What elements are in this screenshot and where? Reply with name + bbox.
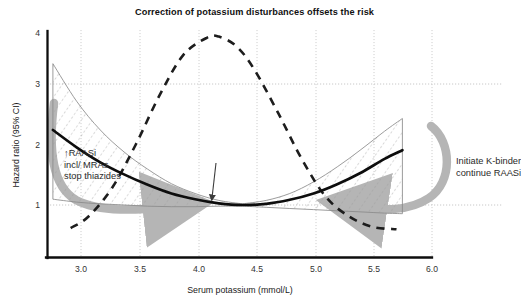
svg-text:5.0: 5.0: [310, 264, 322, 274]
annotation-hyperkalaemia-action: Initiate K-binder continue RAASi: [456, 156, 521, 179]
x-axis-ticks: 3.0 3.5 4.0 4.5 5.0 5.5 6.0: [75, 264, 438, 274]
svg-text:4.0: 4.0: [193, 264, 205, 274]
svg-text:4: 4: [35, 28, 40, 38]
x-axis-title: Serum potassium (mmol/L): [187, 285, 293, 295]
svg-text:3.5: 3.5: [134, 264, 146, 274]
svg-text:4.5: 4.5: [251, 264, 263, 274]
ci-band-right: [243, 119, 403, 214]
svg-text:3: 3: [35, 79, 40, 89]
nadir-arrow: [212, 163, 216, 198]
svg-text:6.0: 6.0: [426, 264, 438, 274]
svg-text:5.5: 5.5: [368, 264, 380, 274]
y-axis-title: Hazard ratio (95% CI): [11, 102, 21, 187]
svg-text:2: 2: [35, 140, 40, 150]
annotation-hypokalaemia-action: ↑RAASi incl/ MRAs stop thiazides: [64, 148, 121, 183]
y-axis-ticks: 4 3 2 1: [35, 28, 40, 210]
svg-text:3.0: 3.0: [75, 264, 87, 274]
svg-text:1: 1: [35, 200, 40, 210]
